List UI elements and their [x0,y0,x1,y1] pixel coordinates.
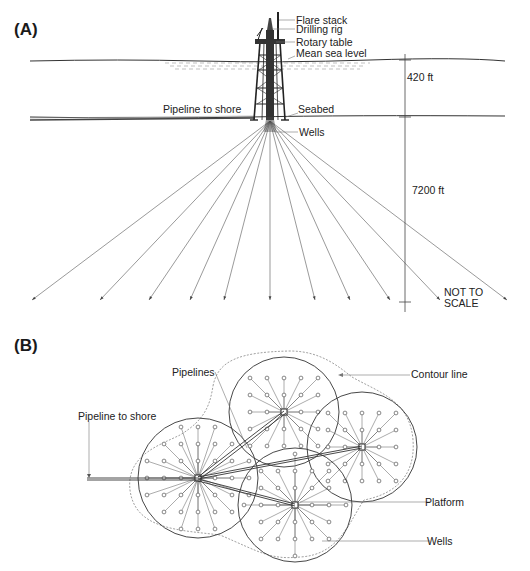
well-icon [360,479,364,483]
well-icon [230,493,234,497]
well-icon [179,510,183,514]
well-icon [259,469,263,473]
well-icon [282,393,286,397]
well-icon [213,510,217,514]
well-icon [327,469,331,473]
well-icon [310,486,314,490]
well-icon [213,476,217,480]
label-well-depth: 7200 ft [412,184,444,196]
well-icon [282,376,286,380]
arrowhead-icon [313,296,316,300]
well-icon [247,476,251,480]
well-icon [179,459,183,463]
well-icon [293,554,297,558]
well-icon [343,462,347,466]
well-icon [394,428,398,432]
cluster-east [307,392,417,502]
label-water-depth: 420 ft [407,71,433,83]
well-clusters [138,357,417,562]
well-icon [299,444,303,448]
panel-b: (B) Pipelines Contour line Pipelin [14,336,468,562]
well-icon [230,442,234,446]
well-icon [179,493,183,497]
arrowhead-icon [190,296,193,300]
label-wells-a: Wells [299,126,324,138]
well-icon [259,537,263,541]
well-icon [230,476,234,480]
well-icon [196,459,200,463]
panel-b-label: (B) [14,336,38,355]
well-icon [259,486,263,490]
well-icon [213,527,217,531]
panel-a: (A) [14,12,507,312]
well-icon [394,445,398,449]
well-icon [377,462,381,466]
well-icon [276,469,280,473]
well-icon [394,479,398,483]
well-trajectory [270,121,440,300]
well-trajectory [32,121,270,300]
well-icon [213,442,217,446]
well-icon [360,428,364,432]
arrowhead-icon [503,297,507,300]
well-icon [327,520,331,524]
platform-icon [359,444,365,450]
well-icon [282,444,286,448]
well-icon [162,459,166,463]
well-icon [344,503,348,507]
well-icon [242,503,246,507]
pipeline-to-shore-line [30,118,255,120]
well-icon [327,537,331,541]
well-icon [310,537,314,541]
arrowhead-icon [224,296,227,300]
arrowhead-icon [32,297,36,300]
well-icon [248,410,252,414]
label-not-to-scale-2: SCALE [444,297,478,309]
well-icon [247,459,251,463]
well-trajectory [100,121,270,300]
well-icon [327,503,331,507]
well-trajectory [270,121,315,300]
panel-a-label: (A) [14,20,38,39]
well-icon [377,479,381,483]
well-icon [293,469,297,473]
well-icon [179,527,183,531]
label-seabed: Seabed [298,103,334,115]
well-icon [196,425,200,429]
well-icon [326,462,330,466]
well-icon [299,427,303,431]
contour-line [130,351,414,558]
label-pipelines: Pipelines [172,366,215,378]
well-icon [265,410,269,414]
well-icon [343,411,347,415]
well-trajectory [149,121,270,300]
well-icon [293,452,297,456]
well-icon [213,425,217,429]
well-icon [265,376,269,380]
well-icon [326,428,330,432]
well-icon [310,469,314,473]
well-icon [230,459,234,463]
well-icon [327,486,331,490]
well-icon [310,520,314,524]
well-trajectory [270,121,350,300]
well-icon [259,520,263,524]
well-icon [293,520,297,524]
well-icon [196,493,200,497]
well-trajectory [224,121,270,300]
well-icon [316,427,320,431]
well-icon [276,520,280,524]
well-icon [196,527,200,531]
well-icon [162,510,166,514]
well-icon [377,411,381,415]
well-icon [259,503,263,507]
label-mean-sea-level: Mean sea level [296,47,367,59]
well-icon [343,445,347,449]
well-icon [293,486,297,490]
well-icon [293,537,297,541]
well-icon [310,503,314,507]
well-icon [196,510,200,514]
cluster-north [229,357,339,467]
well-icon [276,486,280,490]
well-icon [248,376,252,380]
